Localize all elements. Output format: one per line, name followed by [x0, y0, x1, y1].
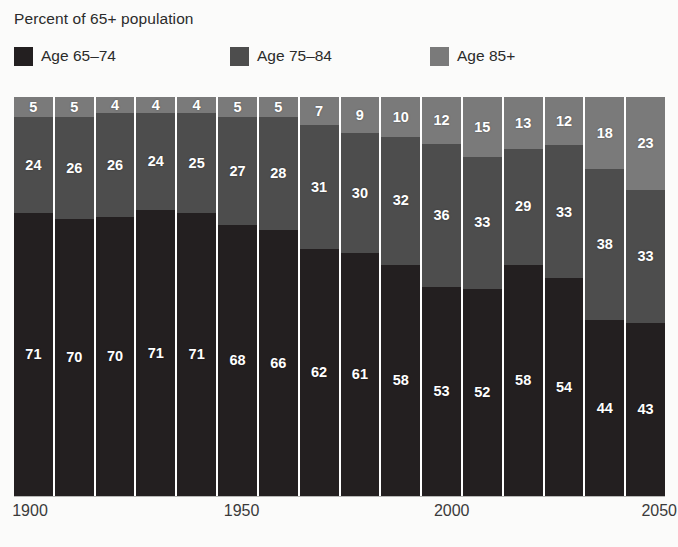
- bar-1950[interactable]: 52768: [218, 97, 257, 496]
- bar-segment-value: 71: [25, 347, 41, 362]
- bar-segment: 5: [218, 97, 257, 117]
- bar-segment: 27: [218, 117, 257, 225]
- bar-1910[interactable]: 52670: [55, 97, 94, 496]
- bar-segment-value: 38: [597, 237, 613, 252]
- bar-segment-value: 13: [515, 116, 531, 131]
- bar-segment-value: 4: [152, 98, 160, 113]
- bar-segment-value: 36: [433, 208, 449, 223]
- bar-segment-value: 33: [556, 205, 572, 220]
- bar-segment: 31: [300, 125, 339, 249]
- bar-segment: 54: [545, 278, 584, 496]
- bar-2010[interactable]: 153352: [463, 97, 502, 496]
- bar-segment: 33: [463, 157, 502, 289]
- bar-segment: 58: [504, 265, 543, 496]
- bar-segment: 9: [341, 97, 380, 133]
- bar-segment: 12: [545, 97, 584, 145]
- bar-segment-value: 58: [515, 373, 531, 388]
- bar-segment-value: 23: [638, 136, 654, 151]
- bar-segment-value: 26: [66, 161, 82, 176]
- bar-1900[interactable]: 52471: [14, 97, 53, 496]
- bar-segment-value: 70: [107, 349, 123, 364]
- bar-segment: 71: [177, 213, 216, 496]
- legend-swatch-age-75-84: [230, 47, 249, 66]
- bar-segment-value: 70: [66, 350, 82, 365]
- bar-segment: 66: [259, 230, 298, 496]
- bar-segment: 24: [14, 117, 53, 213]
- bar-2040[interactable]: 183844: [585, 97, 624, 496]
- bar-2050[interactable]: 233343: [626, 97, 665, 496]
- bar-segment-value: 4: [111, 98, 119, 113]
- bar-1980[interactable]: 93061: [341, 97, 380, 496]
- bar-segment-value: 24: [25, 158, 41, 173]
- bar-1970[interactable]: 73162: [300, 97, 339, 496]
- bar-segment-value: 9: [356, 108, 364, 123]
- bar-1990[interactable]: 103258: [381, 97, 420, 496]
- bar-segment: 4: [136, 97, 175, 113]
- bar-segment-value: 54: [556, 380, 572, 395]
- bar-segment: 5: [14, 97, 53, 117]
- bar-segment: 5: [259, 97, 298, 117]
- bar-1920[interactable]: 42670: [96, 97, 135, 496]
- bar-segment: 32: [381, 137, 420, 265]
- bar-segment-value: 15: [474, 120, 490, 135]
- bar-segment-value: 53: [433, 384, 449, 399]
- bar-segment: 70: [55, 219, 94, 496]
- bar-segment-value: 33: [474, 215, 490, 230]
- bar-segment-value: 32: [393, 193, 409, 208]
- bar-segment: 13: [504, 97, 543, 149]
- bar-segment-value: 58: [393, 373, 409, 388]
- x-axis-tick-2050: 2050: [641, 502, 677, 520]
- bar-segment: 70: [96, 217, 135, 496]
- legend-swatch-age-85-plus: [430, 47, 449, 66]
- x-axis-tick-1900: 1900: [12, 502, 48, 520]
- bar-segment-value: 12: [556, 114, 572, 129]
- bar-segment: 7: [300, 97, 339, 125]
- bar-1960[interactable]: 52866: [259, 97, 298, 496]
- bar-segment: 44: [585, 320, 624, 496]
- bar-segment: 30: [341, 133, 380, 253]
- legend-label-age-85-plus: Age 85+: [457, 47, 515, 65]
- legend-swatch-age-65-74: [14, 47, 33, 66]
- bar-segment: 12: [422, 97, 461, 144]
- x-axis-line: [14, 496, 665, 497]
- bar-segment: 10: [381, 97, 420, 137]
- x-axis-tick-labels: 1900195020002050: [0, 502, 678, 536]
- bar-segment: 24: [136, 113, 175, 210]
- page-title: Percent of 65+ population: [14, 10, 194, 28]
- bar-1930[interactable]: 42471: [136, 97, 175, 496]
- bar-segment: 33: [626, 190, 665, 323]
- bar-segment-value: 30: [352, 186, 368, 201]
- bar-segment-value: 4: [193, 98, 201, 113]
- bar-segment-value: 5: [274, 100, 282, 115]
- bar-2000[interactable]: 123653: [422, 97, 461, 496]
- bar-segment-value: 52: [474, 385, 490, 400]
- bar-2030[interactable]: 123354: [545, 97, 584, 496]
- legend-item-age-75-84: Age 75–84: [230, 44, 332, 68]
- bar-segment-value: 43: [638, 402, 654, 417]
- bar-segment: 25: [177, 113, 216, 213]
- bar-segment: 36: [422, 144, 461, 286]
- bar-segment-value: 61: [352, 367, 368, 382]
- legend-item-age-85-plus: Age 85+: [430, 44, 515, 68]
- bar-segment-value: 62: [311, 365, 327, 380]
- bar-segment-value: 29: [515, 199, 531, 214]
- bar-segment-value: 44: [597, 401, 613, 416]
- bar-segment-value: 28: [270, 166, 286, 181]
- x-axis-tick-1950: 1950: [224, 502, 260, 520]
- bar-segment-value: 5: [29, 100, 37, 115]
- bar-segment: 52: [463, 289, 502, 496]
- bar-segment: 68: [218, 225, 257, 496]
- bar-segment: 23: [626, 97, 665, 190]
- bar-segment-value: 7: [315, 104, 323, 119]
- bar-segment-value: 26: [107, 158, 123, 173]
- bar-segment: 5: [55, 97, 94, 117]
- legend-label-age-65-74: Age 65–74: [41, 47, 116, 65]
- bar-segment: 43: [626, 323, 665, 496]
- bar-segment: 33: [545, 145, 584, 278]
- bar-segment: 4: [177, 97, 216, 113]
- bar-2020[interactable]: 132958: [504, 97, 543, 496]
- x-axis-tick-2000: 2000: [434, 502, 470, 520]
- bar-segment-value: 25: [189, 156, 205, 171]
- bar-1940[interactable]: 42571: [177, 97, 216, 496]
- chart-legend: Age 65–74 Age 75–84 Age 85+: [14, 44, 614, 70]
